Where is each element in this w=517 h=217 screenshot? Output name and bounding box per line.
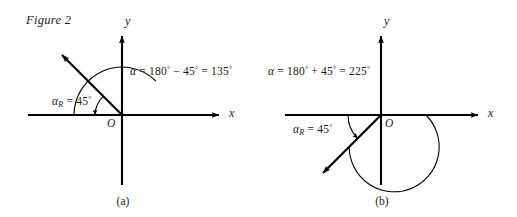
panel-b-eq-sign-1: = (277, 65, 284, 77)
panel-b-ref-degree: ° (329, 123, 332, 132)
panel-b-angle-equation: α = 180° + 45° = 225° (268, 66, 370, 78)
panel-b-second-term: 45 (321, 65, 333, 77)
panel-b-ref-value: 45 (317, 123, 329, 135)
panel-a-degree-2: ° (195, 65, 198, 74)
panel-b-alpha-symbol: α (268, 65, 274, 77)
panel-a-alpha-symbol: α (130, 65, 136, 77)
panel-a-angle-equation: α = 180° − 45° = 135° (130, 66, 232, 78)
panel-a-eq-sign-2: = (201, 65, 208, 77)
panel-a-ref-eq-sign: = (67, 95, 74, 107)
panel-b-origin-label: O (385, 118, 393, 130)
panel-a-origin-label: O (107, 118, 115, 130)
panel-b-graphics (285, 36, 478, 192)
panel-b-degree-2: ° (333, 65, 336, 74)
panel-a-eq-sign-1: = (139, 65, 146, 77)
panel-a-second-term: 45 (183, 65, 195, 77)
panel-b-operator: + (311, 65, 318, 77)
panel-a-reference-angle-arc (95, 96, 103, 115)
figure-title: Figure 2 (26, 14, 71, 27)
panel-b-first-term: 180 (287, 65, 305, 77)
panel-b-degree-1: ° (305, 65, 308, 74)
panel-a-ref-value: 45 (76, 95, 88, 107)
panel-a-graphics (28, 36, 219, 185)
panel-b-y-axis-label: y (384, 15, 389, 27)
panel-a-y-axis-label: y (125, 15, 130, 27)
figure-container: Figure 2 y x O α = 180° − 45° = 135° αR … (0, 0, 517, 217)
panel-b-reference-angle-arc (348, 115, 358, 138)
panel-a-first-term: 180 (149, 65, 167, 77)
panel-b-x-axis-label: x (488, 107, 493, 119)
panel-a-operator: − (173, 65, 180, 77)
panel-a-degree-1: ° (167, 65, 170, 74)
panel-b-reference-angle-label: αR = 45° (293, 124, 332, 138)
panel-a-degree-3: ° (229, 65, 232, 74)
panel-a-ref-subscript: R (58, 100, 63, 109)
panel-a-reference-angle-label: αR = 45° (52, 96, 91, 110)
panel-b-angle-arc (349, 115, 439, 192)
panel-b-ref-eq-sign: = (308, 123, 315, 135)
panel-b-ref-subscript: R (299, 128, 304, 137)
panel-a-result: 135 (211, 65, 229, 77)
panel-b-eq-sign-2: = (339, 65, 346, 77)
panel-a-caption: (a) (113, 196, 133, 208)
panel-b-degree-3: ° (367, 65, 370, 74)
panel-b-caption: (b) (372, 196, 392, 208)
panel-a-ref-degree: ° (88, 95, 91, 104)
panel-a-x-axis-label: x (229, 107, 234, 119)
panel-b-result: 225 (349, 65, 367, 77)
